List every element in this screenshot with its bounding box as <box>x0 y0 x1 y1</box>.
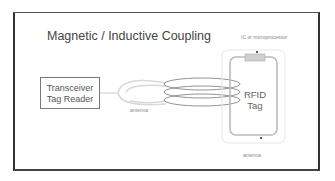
rfid-tag-label: RFID Tag <box>237 89 273 111</box>
transceiver-tag-reader-box: Transceiver Tag Reader <box>40 77 100 109</box>
coupling-coil-icon <box>164 78 240 106</box>
reader-label-line2: Tag Reader <box>41 94 99 105</box>
reader-antenna-label: antenna <box>130 107 148 113</box>
ic-chip-icon <box>245 54 265 61</box>
tag-label-line2: Tag <box>237 100 273 111</box>
reader-label-line1: Transceiver <box>41 83 99 94</box>
antenna-pointer-dot <box>260 137 262 139</box>
tag-antenna-label: antenna <box>243 152 261 158</box>
reader-antenna-coil <box>118 80 166 104</box>
chip-label: IC or microprocessor <box>241 34 287 40</box>
chip-pointer-dot <box>256 51 258 53</box>
diagram-title: Magnetic / Inductive Coupling <box>47 29 211 43</box>
tag-label-line1: RFID <box>237 89 273 100</box>
